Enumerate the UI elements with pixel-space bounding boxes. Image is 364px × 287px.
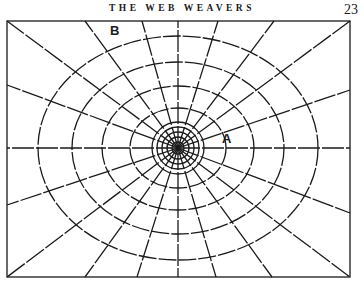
spider-web-figure: B A: [0, 0, 364, 287]
web-radii: [7, 21, 350, 277]
label-a: A: [222, 131, 232, 146]
label-b: B: [110, 23, 119, 38]
